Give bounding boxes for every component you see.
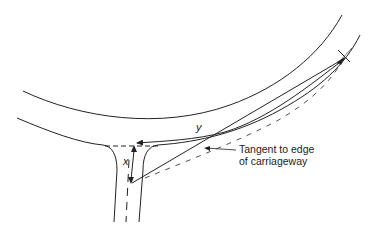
annotation-leader-arrow [204, 146, 210, 151]
annotation-leader-line [206, 148, 236, 150]
main-road-inner-edge-left [17, 118, 103, 145]
junction-sight-line-diagram: y x Tangent to edge of carriageway [0, 0, 377, 237]
x-distance-arrow [131, 150, 134, 180]
diagram-drawing [0, 0, 377, 237]
tangent-annotation: Tangent to edge of carriageway [239, 143, 314, 167]
side-road-right-edge [139, 145, 158, 222]
tangent-annotation-line-1: Tangent to edge [239, 143, 314, 155]
main-road-outer-edge [23, 15, 342, 119]
side-road-centre-line [126, 160, 129, 222]
x-label: x [123, 155, 129, 167]
side-road-left-edge [103, 145, 117, 222]
main-road-inner-edge-right [158, 35, 360, 145]
x-arrow-head-bottom [128, 177, 134, 184]
tangent-annotation-line-2: of carriageway [239, 155, 314, 167]
y-label: y [196, 121, 202, 133]
